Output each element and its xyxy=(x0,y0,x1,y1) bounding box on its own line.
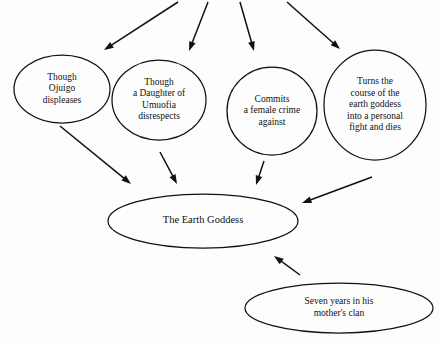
node-label-line: Seven years in his xyxy=(305,296,374,306)
arrowhead-icon xyxy=(248,41,255,51)
edge-shaft xyxy=(192,2,208,44)
arrowhead-icon xyxy=(170,174,177,184)
node-female-crime[interactable]: Commitsa female crimeagainst xyxy=(227,67,317,155)
edge-shaft xyxy=(60,126,125,179)
node-label-line: course of the xyxy=(350,88,399,98)
edge-shaft xyxy=(111,2,178,46)
edge-edge-ojuigo-to-goddess xyxy=(60,126,131,184)
edge-shaft xyxy=(309,177,372,200)
node-label-line: Though xyxy=(144,77,174,87)
node-label-line: displeases xyxy=(43,95,82,105)
arrowhead-icon xyxy=(256,175,262,185)
edge-edge-course-to-goddess xyxy=(302,177,372,203)
edge-edge-seven-years-to-goddess xyxy=(274,256,300,275)
edge-shaft xyxy=(280,261,300,275)
node-earth-goddess-course[interactable]: Turns thecourse of theearth goddessinto … xyxy=(324,50,426,160)
diagram-canvas: ThoughOjuigodispleasesThougha Daughter o… xyxy=(0,0,442,344)
node-label: Seven years in hismother's clan xyxy=(305,296,374,318)
edge-shaft xyxy=(259,161,264,177)
edge-edge-top-to-daughter xyxy=(189,2,208,51)
node-label-line: against xyxy=(259,117,286,127)
edge-shaft xyxy=(287,2,334,44)
node-label-line: mother's clan xyxy=(314,308,365,318)
node-label-line: Ojuigo xyxy=(49,83,76,93)
edge-shaft xyxy=(240,2,252,43)
edge-edge-crime-to-goddess xyxy=(256,161,264,185)
arrowhead-icon xyxy=(302,197,312,203)
edge-edge-top-to-course xyxy=(287,2,340,49)
concept-map-svg: ThoughOjuigodispleasesThougha Daughter o… xyxy=(0,0,442,344)
node-daughter-of-umuofia[interactable]: Thougha Daughter ofUmuofiadisrespects xyxy=(112,60,206,140)
node-label-line: Turns the xyxy=(357,76,393,86)
edge-edge-top-to-female-crime xyxy=(240,2,255,51)
node-ojuigo[interactable]: ThoughOjuigodispleases xyxy=(14,55,110,123)
node-label-line: a female crime xyxy=(244,105,300,115)
node-seven-years[interactable]: Seven years in hismother's clan xyxy=(245,283,433,333)
arrowhead-icon xyxy=(189,41,196,51)
arrowhead-icon xyxy=(274,256,284,264)
edge-shaft xyxy=(160,152,173,177)
node-label-line: disrespects xyxy=(138,111,180,121)
nodes-layer: ThoughOjuigodispleasesThougha Daughter o… xyxy=(14,50,433,333)
node-label-line: The Earth Goddess xyxy=(163,214,243,225)
node-label-line: fight and dies xyxy=(349,122,401,132)
edge-edge-top-to-ojuigo xyxy=(104,2,178,50)
node-label-line: a Daughter of xyxy=(133,88,186,98)
node-label-line: Commits xyxy=(255,94,290,104)
node-label-line: earth goddess xyxy=(349,99,401,109)
edge-edge-daughter-to-goddess xyxy=(160,152,177,184)
node-label: The Earth Goddess xyxy=(163,214,243,225)
arrowhead-icon xyxy=(104,42,114,50)
node-label-line: into a personal xyxy=(347,111,403,121)
node-label-line: Though xyxy=(47,72,77,82)
node-the-earth-goddess[interactable]: The Earth Goddess xyxy=(108,194,298,248)
node-label-line: Umuofia xyxy=(142,100,177,110)
